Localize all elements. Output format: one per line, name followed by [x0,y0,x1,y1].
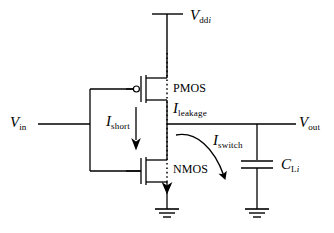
circuit-schematic-svg [0,0,334,233]
pmos-transistor [126,75,167,124]
supply-voltage-label: Vddi [190,8,211,23]
pmos-inversion-bubble [133,86,139,92]
short-circuit-current-label: Ishort [106,114,130,129]
load-capacitance-label: CLi [281,157,299,172]
circuit-diagram-canvas: Vddi Vin Vout PMOS NMOS Ishort Ileakage … [0,0,334,233]
pmos-label: PMOS [173,82,206,94]
output-voltage-label: Vout [299,115,320,130]
switching-current-label: Iswitch [213,133,243,148]
ground-nmos-source [155,209,179,217]
leakage-current-label: Ileakage [173,101,207,116]
ground-capacitor [245,209,269,217]
input-voltage-label: Vin [10,115,27,130]
nmos-label: NMOS [173,163,208,175]
nmos-transistor [126,124,167,209]
short-circuit-current-arrow [131,107,141,151]
supply-terminal [152,14,183,78]
load-capacitor [241,124,273,209]
